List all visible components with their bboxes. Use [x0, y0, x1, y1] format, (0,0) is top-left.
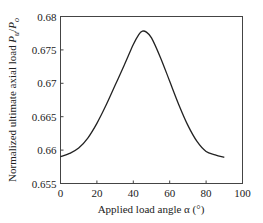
- line-chart: 020406080100 0.6550.660.6650.670.6750.68…: [0, 0, 263, 223]
- y-tick-label: 0.67: [37, 77, 57, 89]
- y-tick-label: 0.675: [32, 44, 57, 56]
- y-tick-label: 0.66: [37, 144, 57, 156]
- x-axis-label: Applied load angle α (°): [98, 203, 205, 216]
- x-tick-label: 100: [234, 187, 251, 199]
- y-axis-ticks: 0.6550.660.6650.670.6750.68: [32, 11, 64, 190]
- x-tick-label: 80: [201, 187, 213, 199]
- y-tick-label: 0.655: [32, 178, 57, 190]
- y-tick-label: 0.665: [32, 111, 57, 123]
- plot-frame: [61, 17, 243, 184]
- x-tick-label: 0: [58, 187, 64, 199]
- data-line: [61, 31, 225, 158]
- x-tick-label: 60: [164, 187, 176, 199]
- y-tick-label: 0.68: [37, 11, 57, 23]
- x-tick-label: 20: [91, 187, 103, 199]
- x-tick-label: 40: [128, 187, 140, 199]
- y-axis-label: Normalized ultimate axial load Pu/Po: [6, 18, 21, 182]
